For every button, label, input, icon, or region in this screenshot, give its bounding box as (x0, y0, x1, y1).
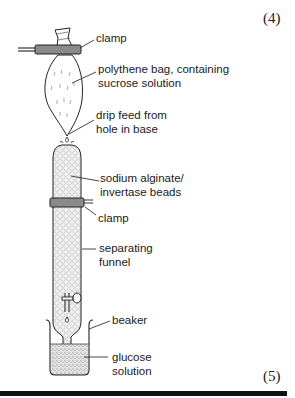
leader-clamp-top (80, 40, 94, 48)
label-beads-line2: invertase beads (100, 185, 181, 199)
label-clamp-middle: clamp (98, 211, 129, 225)
marks-bottom: (5) (263, 368, 281, 385)
top-clamp (18, 45, 81, 54)
leader-beaker (89, 321, 110, 329)
label-drip-line2: hole in base (96, 122, 158, 136)
drip-drop-top (60, 137, 74, 143)
bag-knot (55, 28, 72, 46)
label-clamp-top: clamp (96, 31, 127, 45)
label-funnel-line1: separating (99, 241, 153, 255)
label-beaker: beaker (112, 313, 147, 327)
label-glucose-line2: solution (112, 364, 152, 378)
label-beads-line1: sodium alginate/ (100, 171, 184, 185)
leader-clamp-middle (85, 207, 96, 215)
middle-clamp (50, 198, 93, 207)
separating-funnel (53, 145, 81, 345)
label-bag-line1: polythene bag, containing (98, 62, 229, 76)
label-glucose-line1: glucose (112, 350, 152, 364)
polythene-bag (45, 55, 83, 136)
label-drip-line1: drip feed from (96, 108, 167, 122)
label-funnel-line2: funnel (99, 255, 130, 269)
label-bag-line2: sucrose solution (98, 76, 181, 90)
section-divider (0, 391, 287, 396)
apparatus-diagram (0, 0, 295, 398)
